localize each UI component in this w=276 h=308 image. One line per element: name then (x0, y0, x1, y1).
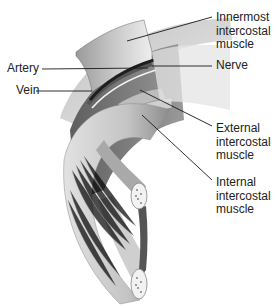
label-external-intercostal-muscle: External intercostal muscle (216, 122, 271, 163)
label-innermost-intercostal-muscle: Innermost intercostal muscle (216, 11, 271, 52)
label-vein: Vein (16, 84, 39, 98)
label-internal-intercostal-muscle: Internal intercostal muscle (216, 176, 271, 217)
rib-cut-end-lower (131, 269, 147, 299)
rib-edge-right (152, 45, 230, 110)
label-artery: Artery (7, 62, 39, 76)
label-nerve: Nerve (216, 59, 248, 73)
rib-cut-end-upper (131, 183, 147, 209)
intercostal-diagram: Innermost intercostal muscle Nerve Arter… (0, 0, 276, 308)
leader-internal (142, 115, 212, 180)
